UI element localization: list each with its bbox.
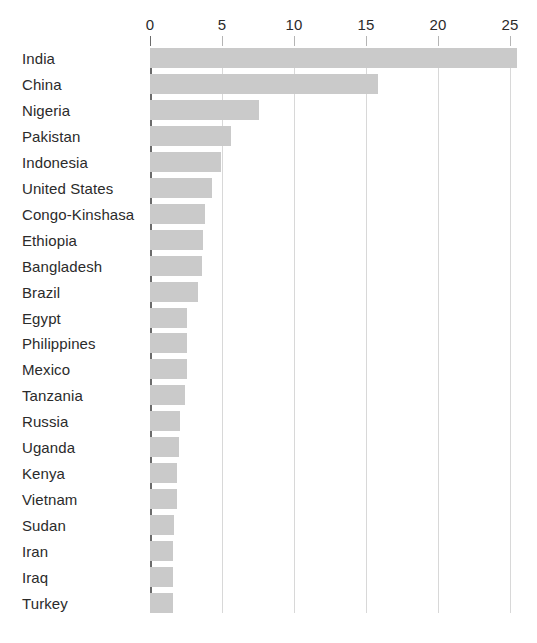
category-label: China (22, 75, 62, 92)
category-label: Mexico (22, 361, 70, 378)
x-axis-tick-mark-5 (222, 36, 223, 46)
category-label: Uganda (22, 439, 75, 456)
bar-row: Nigeria (0, 100, 537, 120)
bar-row: Ethiopia (0, 230, 537, 250)
x-axis-tick-mark-10 (294, 36, 295, 46)
bar (150, 282, 198, 302)
category-label: Iraq (22, 569, 48, 586)
category-label: Congo-Kinshasa (22, 205, 134, 222)
bar-row: Philippines (0, 333, 537, 353)
bar (150, 74, 378, 94)
bar (150, 463, 177, 483)
bar-row: Sudan (0, 515, 537, 535)
x-axis-tick-mark-0 (150, 36, 151, 46)
bar (150, 256, 202, 276)
bar-row: Uganda (0, 437, 537, 457)
bar (150, 515, 174, 535)
x-axis-tick-label-0: 0 (146, 16, 155, 33)
bar-row: Vietnam (0, 489, 537, 509)
bar (150, 359, 187, 379)
bar (150, 437, 179, 457)
bar-row: Tanzania (0, 385, 537, 405)
bar-row: Congo-Kinshasa (0, 204, 537, 224)
bar-chart: 0510152025 IndiaChinaNigeriaPakistanIndo… (0, 0, 537, 643)
bar-row: India (0, 48, 537, 68)
category-label: Iran (22, 543, 48, 560)
category-label: Indonesia (22, 153, 88, 170)
bar (150, 308, 187, 328)
bar (150, 567, 173, 587)
bar (150, 204, 205, 224)
bar (150, 411, 180, 431)
bar-row: Russia (0, 411, 537, 431)
bar (150, 230, 203, 250)
category-label: Tanzania (22, 387, 83, 404)
category-label: Sudan (22, 517, 66, 534)
bar-row: Egypt (0, 308, 537, 328)
bar-row: Iran (0, 541, 537, 561)
category-label: Brazil (22, 283, 60, 300)
category-label: Nigeria (22, 101, 70, 118)
bar-row: Indonesia (0, 152, 537, 172)
x-axis-tick-label-15: 15 (357, 16, 374, 33)
bar (150, 593, 173, 613)
category-label: Ethiopia (22, 231, 77, 248)
x-axis-tick-label-20: 20 (429, 16, 446, 33)
bar (150, 333, 187, 353)
bar-row: Turkey (0, 593, 537, 613)
category-label: Egypt (22, 309, 61, 326)
bar-row: Brazil (0, 282, 537, 302)
category-label: Pakistan (22, 127, 80, 144)
bar (150, 178, 212, 198)
x-axis-tick-mark-25 (510, 36, 511, 46)
x-axis-tick-mark-15 (366, 36, 367, 46)
category-label: Russia (22, 413, 68, 430)
bar-row: China (0, 74, 537, 94)
bar (150, 489, 177, 509)
x-axis-tick-labels: 0510152025 (0, 16, 537, 38)
bar-row: Mexico (0, 359, 537, 379)
bar (150, 126, 231, 146)
bar-row: Kenya (0, 463, 537, 483)
bar (150, 385, 185, 405)
category-label: Kenya (22, 465, 65, 482)
bar-row: Pakistan (0, 126, 537, 146)
category-label: United States (22, 179, 113, 196)
plot-area: IndiaChinaNigeriaPakistanIndonesiaUnited… (0, 48, 537, 613)
category-label: Turkey (22, 594, 68, 611)
bar-row: Iraq (0, 567, 537, 587)
bar (150, 152, 221, 172)
x-axis-tick-label-25: 25 (501, 16, 518, 33)
category-label: India (22, 50, 55, 67)
bar-row: United States (0, 178, 537, 198)
x-axis-tick-label-10: 10 (285, 16, 302, 33)
category-label: Philippines (22, 335, 96, 352)
bar (150, 541, 173, 561)
bar (150, 48, 517, 68)
x-axis-tick-mark-20 (438, 36, 439, 46)
bar-row: Bangladesh (0, 256, 537, 276)
bar (150, 100, 259, 120)
category-label: Vietnam (22, 491, 77, 508)
x-axis-tick-label-5: 5 (218, 16, 227, 33)
category-label: Bangladesh (22, 257, 102, 274)
